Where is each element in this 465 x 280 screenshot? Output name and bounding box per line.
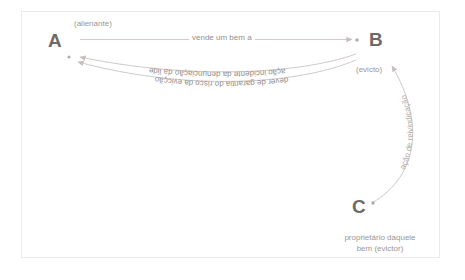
node-c-caption-line-1: proprietário daquele xyxy=(330,232,430,243)
edge-a-to-b-label: vende um bem a xyxy=(189,33,255,42)
node-c-letter[interactable]: C xyxy=(352,196,366,218)
node-b-caption: (evicto) xyxy=(356,64,382,75)
node-b-letter[interactable]: B xyxy=(369,29,383,51)
node-a-caption: (alienante) xyxy=(74,18,112,29)
node-c-caption: proprietário daquele bem (evictor) xyxy=(330,232,430,254)
edge-c-to-b-label: ação de reivindicação xyxy=(398,93,415,170)
diagram-canvas: ação incidente da denunciação da lide de… xyxy=(0,0,465,280)
node-b-dot xyxy=(355,38,358,41)
node-c-dot xyxy=(371,201,374,204)
node-c-caption-line-2: bem (evictor) xyxy=(330,243,430,254)
node-a-dot xyxy=(68,56,71,59)
edge-b-to-a-1-line xyxy=(80,54,356,72)
node-a-letter[interactable]: A xyxy=(48,30,62,52)
